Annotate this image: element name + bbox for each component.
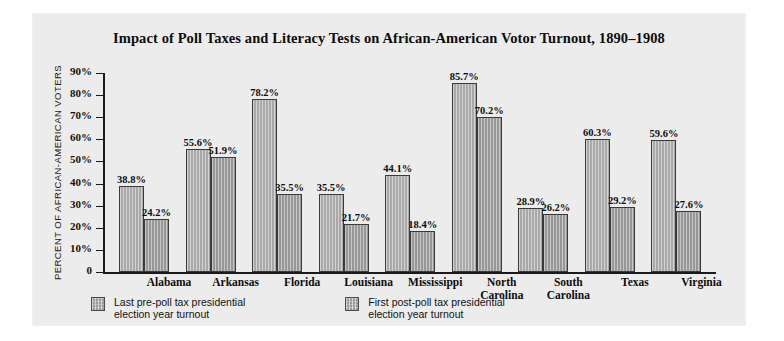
chart-title: Impact of Poll Taxes and Literacy Tests … [33,30,745,47]
bar[interactable]: 44.1% [385,175,410,273]
bar[interactable]: 35.5% [277,194,302,272]
legend: Last pre-poll tax presidential election … [91,296,505,320]
bar[interactable]: 60.3% [585,139,610,272]
bar[interactable]: 51.9% [211,157,236,272]
y-axis-tick-label: 40% [70,176,92,188]
y-axis-tick-label: 10% [70,242,92,254]
bar-value-label: 44.1% [383,163,412,174]
legend-label-series-0: Last pre-poll tax presidential election … [114,296,245,320]
bar[interactable]: 85.7% [452,83,477,272]
bar-value-label: 26.2% [541,202,570,213]
bar-group: 28.9%26.2% [518,73,568,272]
legend-swatch-icon-series-0 [91,297,105,311]
bar[interactable]: 78.2% [252,99,277,272]
bar[interactable]: 38.8% [119,186,144,272]
bar-group: 35.5%21.7% [319,73,369,272]
y-axis-title: PERCENT OF AFRICAN-AMERICAN VOTERS [51,73,65,272]
y-axis-tick: 0 [96,272,103,273]
legend-item-pre-poll-tax: Last pre-poll tax presidential election … [91,296,245,320]
bar-value-label: 70.2% [475,105,504,116]
y-axis-tick: 90% [96,73,103,74]
legend-label-series-1: First post-poll tax presidential electio… [368,296,505,320]
y-axis-tick-label: 60% [70,131,92,143]
bar[interactable]: 59.6% [651,140,676,272]
legend-item-post-poll-tax: First post-poll tax presidential electio… [345,296,505,320]
bar-value-label: 51.9% [209,145,238,156]
y-axis-tick-label: 70% [70,109,92,121]
y-axis-tick: 80% [96,95,103,96]
x-axis-category-label: Virginia [651,276,751,289]
bar[interactable]: 21.7% [344,224,369,272]
bar[interactable]: 70.2% [477,117,502,272]
bar-value-label: 85.7% [450,71,479,82]
y-axis-tick-label: 20% [70,220,92,232]
y-axis-tick-label: 80% [70,87,92,99]
bar-group: 59.6%27.6% [651,73,701,272]
figure-card: Impact of Poll Taxes and Literacy Tests … [33,14,745,325]
y-axis-tick: 70% [96,117,103,118]
y-axis-tick-label: 50% [70,153,92,165]
bar-value-label: 38.8% [117,174,146,185]
legend-swatch-icon-series-1 [345,297,359,311]
bar-group: 78.2%35.5% [252,73,302,272]
y-axis-line [103,73,105,272]
bar[interactable]: 35.5% [319,194,344,272]
bar-value-label: 35.5% [275,182,304,193]
bar-value-label: 18.4% [408,219,437,230]
bar[interactable]: 26.2% [543,214,568,272]
bar-group: 85.7%70.2% [452,73,502,272]
bar-value-label: 35.5% [317,182,346,193]
bar[interactable]: 18.4% [410,231,435,272]
y-axis-tick-label: 90% [70,65,92,77]
bar[interactable]: 27.6% [676,211,701,272]
y-axis-tick: 10% [96,250,103,251]
bar-value-label: 29.2% [608,195,637,206]
bar-value-label: 78.2% [250,87,279,98]
bar-value-label: 60.3% [583,127,612,138]
y-axis-tick: 60% [96,139,103,140]
bar[interactable]: 55.6% [186,149,211,272]
y-axis-title-text: PERCENT OF AFRICAN-AMERICAN VOTERS [53,65,64,280]
plot-area: 90%80%70%60%50%40%30%20%10%0 38.8%24.2%5… [103,73,716,272]
bar-group: 55.6%51.9% [186,73,236,272]
bar[interactable]: 29.2% [610,207,635,272]
x-axis-line [103,272,716,274]
y-axis-tick-label: 0 [87,264,93,276]
bar-value-label: 59.6% [650,128,679,139]
y-axis-tick: 30% [96,206,103,207]
bar[interactable]: 28.9% [518,208,543,272]
bar-value-label: 24.2% [142,207,171,218]
bar[interactable]: 24.2% [144,219,169,273]
y-axis-tick-label: 30% [70,198,92,210]
bar-group: 60.3%29.2% [585,73,635,272]
bar-value-label: 27.6% [675,199,704,210]
bar-group: 38.8%24.2% [119,73,169,272]
bar-group: 44.1%18.4% [385,73,435,272]
bar-value-label: 21.7% [342,212,371,223]
y-axis-tick: 50% [96,161,103,162]
y-axis-tick: 40% [96,184,103,185]
y-axis-tick: 20% [96,228,103,229]
